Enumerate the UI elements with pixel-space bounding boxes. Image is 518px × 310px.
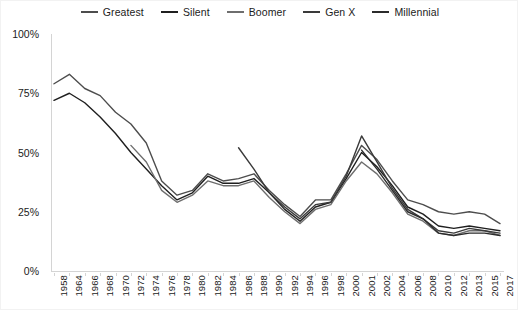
x-tick-label: 1986 — [243, 275, 254, 297]
legend-swatch-greatest — [81, 11, 98, 13]
legend-swatch-silent — [161, 11, 178, 13]
x-tick-mark — [392, 273, 393, 276]
y-axis-tick-labels: 0%25%50%75%100% — [1, 34, 45, 271]
legend-item-silent[interactable]: Silent — [161, 7, 210, 18]
y-tick-label: 0% — [24, 265, 39, 277]
legend-label-millennial: Millennial — [394, 7, 439, 18]
x-tick-mark — [454, 273, 455, 276]
series-line-boomer — [131, 145, 500, 235]
x-tick-label: 1978 — [181, 275, 192, 297]
x-tick-mark — [208, 273, 209, 276]
x-tick-label: 1992 — [289, 275, 300, 297]
x-tick-mark — [254, 273, 255, 276]
legend-item-gen-x[interactable]: Gen X — [303, 7, 355, 18]
x-tick-label: 2010 — [442, 275, 453, 297]
x-axis-line — [51, 271, 504, 272]
legend-swatch-millennial — [372, 11, 389, 13]
x-tick-mark — [315, 273, 316, 276]
x-tick-mark — [423, 273, 424, 276]
x-tick-mark — [346, 273, 347, 276]
series-canvas — [51, 34, 503, 271]
x-tick-mark — [177, 273, 178, 276]
series-line-gen-x — [239, 136, 500, 233]
y-tick-label: 75% — [18, 87, 39, 99]
y-tick-label: 50% — [18, 147, 39, 159]
x-tick-label: 1980 — [196, 275, 207, 297]
x-tick-label: 2017 — [504, 275, 515, 297]
chart-legend: Greatest Silent Boomer Gen X Millennial — [1, 7, 518, 18]
x-tick-label: 1972 — [135, 275, 146, 297]
x-tick-label: 1974 — [150, 275, 161, 297]
legend-label-greatest: Greatest — [103, 7, 144, 18]
x-tick-mark — [69, 273, 70, 276]
x-tick-label: 2004 — [396, 275, 407, 297]
x-tick-label: 2000 — [350, 275, 361, 297]
legend-swatch-boomer — [227, 11, 244, 13]
legend-item-greatest[interactable]: Greatest — [81, 7, 144, 18]
x-tick-label: 1964 — [73, 275, 84, 297]
x-tick-label: 1994 — [304, 275, 315, 297]
x-tick-label: 1968 — [104, 275, 115, 297]
x-tick-mark — [408, 273, 409, 276]
x-tick-mark — [100, 273, 101, 276]
x-tick-mark — [362, 273, 363, 276]
x-tick-label: 1990 — [273, 275, 284, 297]
x-tick-label: 1970 — [120, 275, 131, 297]
x-tick-label: 1958 — [58, 275, 69, 297]
x-tick-mark — [192, 273, 193, 276]
x-tick-mark — [269, 273, 270, 276]
legend-label-gen-x: Gen X — [325, 7, 355, 18]
x-tick-label: 1998 — [335, 275, 346, 297]
x-axis-tick-labels: 1958196419661968197019721974197619781980… — [51, 273, 503, 310]
x-tick-label: 2015 — [489, 275, 500, 297]
plot-area — [51, 34, 503, 271]
legend-label-boomer: Boomer — [249, 7, 286, 18]
x-tick-mark — [300, 273, 301, 276]
x-tick-mark — [223, 273, 224, 276]
x-tick-mark — [116, 273, 117, 276]
x-tick-label: 2001 — [366, 275, 377, 297]
x-tick-mark — [131, 273, 132, 276]
x-tick-label: 2012 — [458, 275, 469, 297]
legend-label-silent: Silent — [183, 7, 210, 18]
x-tick-mark — [377, 273, 378, 276]
legend-item-boomer[interactable]: Boomer — [227, 7, 286, 18]
series-line-silent — [54, 93, 500, 230]
x-tick-label: 2008 — [427, 275, 438, 297]
x-tick-mark — [500, 273, 501, 276]
y-tick-label: 100% — [12, 28, 39, 40]
x-tick-label: 1966 — [89, 275, 100, 297]
y-tick-label: 25% — [18, 206, 39, 218]
x-tick-mark — [438, 273, 439, 276]
x-tick-mark — [162, 273, 163, 276]
x-tick-mark — [485, 273, 486, 276]
x-tick-mark — [85, 273, 86, 276]
x-tick-label: 1976 — [166, 275, 177, 297]
x-tick-mark — [285, 273, 286, 276]
x-tick-mark — [54, 273, 55, 276]
x-tick-label: 1984 — [227, 275, 238, 297]
x-tick-mark — [469, 273, 470, 276]
x-tick-label: 2006 — [412, 275, 423, 297]
legend-item-millennial[interactable]: Millennial — [372, 7, 439, 18]
x-tick-mark — [239, 273, 240, 276]
x-tick-label: 1988 — [258, 275, 269, 297]
x-tick-label: 2013 — [473, 275, 484, 297]
x-tick-label: 1982 — [212, 275, 223, 297]
legend-swatch-gen-x — [303, 11, 320, 13]
series-line-millennial — [362, 150, 500, 235]
x-tick-mark — [146, 273, 147, 276]
x-tick-label: 2002 — [381, 275, 392, 297]
x-tick-mark — [331, 273, 332, 276]
trust-in-government-line-chart: Greatest Silent Boomer Gen X Millennial … — [0, 0, 518, 310]
x-tick-label: 1996 — [319, 275, 330, 297]
